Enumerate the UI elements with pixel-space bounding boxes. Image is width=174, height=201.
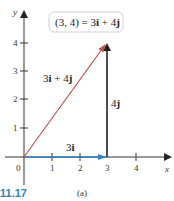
subfigure-label: (a) — [77, 188, 87, 198]
x-tick-label-3: 3 — [105, 163, 110, 173]
figure-number: 11.17 — [0, 187, 27, 199]
y-tick-label-3: 3 — [13, 66, 18, 76]
x-tick-label-1: 1 — [50, 163, 55, 173]
y-tick-label-4: 4 — [13, 38, 18, 48]
y-tick-label-2: 2 — [13, 94, 18, 104]
vector-3i-plus-4j — [24, 45, 105, 157]
origin-label: 0 — [16, 163, 21, 173]
x-tick-label-2: 2 — [78, 163, 83, 173]
x-tick-label-4: 4 — [134, 163, 139, 173]
callout-text: (3, 4) = 3i + 4j — [55, 16, 120, 29]
y-tick-label-1: 1 — [13, 123, 18, 133]
y-axis-label: y — [12, 7, 17, 17]
vector-diagram: 1 2 3 4 y 0 1 2 3 4 x (3, 4) = 3i + 4j 3… — [0, 0, 174, 201]
x-axis-label: x — [164, 164, 169, 174]
label-3i-plus-4j: 3i + 4j — [43, 72, 72, 84]
label-4j: 4j — [111, 97, 120, 109]
label-3i: 3i — [66, 141, 75, 153]
